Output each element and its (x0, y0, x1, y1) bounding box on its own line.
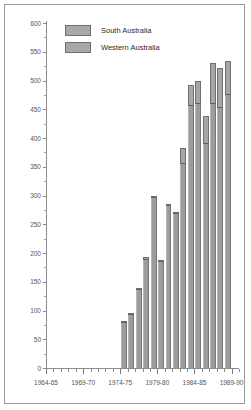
x-tick (91, 369, 92, 372)
bar-segment-western-australia (210, 104, 216, 368)
y-tick-label: 150 (5, 278, 41, 285)
y-tick-label: 50 (5, 336, 41, 343)
y-tick-minor (44, 181, 47, 182)
x-tick (98, 369, 99, 372)
bar-stack (195, 81, 201, 368)
y-tick-label: 100 (5, 307, 41, 314)
bar-segment-south-australia (188, 85, 194, 106)
legend-label-western-australia: Western Australia (101, 42, 160, 53)
bar-segment-western-australia (128, 314, 134, 368)
y-tick (43, 311, 47, 312)
x-tick (143, 369, 144, 372)
y-tick-label: 450 (5, 106, 41, 113)
bar-segment-western-australia (151, 197, 157, 368)
y-tick (43, 224, 47, 225)
y-tick-minor (44, 124, 47, 125)
x-tick (209, 369, 210, 372)
bar-stack (203, 116, 209, 368)
x-tick (239, 369, 240, 372)
y-tick-label: 600 (5, 20, 41, 27)
y-tick (43, 339, 47, 340)
y-tick (43, 81, 47, 82)
bar-stack (173, 212, 179, 368)
bar-stack (166, 204, 172, 368)
bar-segment-western-australia (143, 260, 149, 368)
y-tick-label: 550 (5, 48, 41, 55)
bar-stack (210, 63, 216, 368)
x-tick-major (194, 369, 195, 374)
x-tick (224, 369, 225, 372)
y-tick-label: 300 (5, 192, 41, 199)
x-tick (187, 369, 188, 372)
x-tick-major (46, 369, 47, 374)
legend-label-south-australia: South Australia (101, 25, 151, 36)
y-tick (43, 52, 47, 53)
x-tick (76, 369, 77, 372)
x-tick (113, 369, 114, 372)
bar-segment-western-australia (203, 144, 209, 368)
y-tick-label: 200 (5, 250, 41, 257)
y-tick-minor (44, 37, 47, 38)
bar-segment-south-australia (217, 68, 223, 108)
bar-segment-south-australia (158, 260, 164, 262)
bar-segment-south-australia (166, 204, 172, 207)
bar-segment-western-australia (225, 95, 231, 368)
x-tick-major (157, 369, 158, 374)
bar-segment-western-australia (121, 322, 127, 368)
bar-segment-south-australia (121, 321, 127, 323)
bar-stack (217, 68, 223, 368)
y-tick (43, 23, 47, 24)
bar-stack (188, 85, 194, 368)
bar-segment-south-australia (225, 61, 231, 96)
x-tick (180, 369, 181, 372)
bar-stack (136, 288, 142, 369)
y-tick (43, 138, 47, 139)
bar-segment-western-australia (136, 290, 142, 368)
y-tick-minor (44, 354, 47, 355)
bar-segment-south-australia (151, 196, 157, 198)
y-tick-label: 400 (5, 135, 41, 142)
y-tick (43, 253, 47, 254)
y-tick-label: 350 (5, 163, 41, 170)
bar-segment-western-australia (195, 104, 201, 368)
bar-segment-south-australia (143, 257, 149, 260)
x-tick (217, 369, 218, 372)
x-tick (150, 369, 151, 372)
x-tick (105, 369, 106, 372)
x-tick (202, 369, 203, 372)
chart-frame: 050100150200250300350400450500550600 196… (4, 4, 245, 404)
legend-swatch-south-australia (65, 25, 91, 36)
y-tick (43, 167, 47, 168)
x-tick-label: 1989-90 (209, 379, 251, 387)
bar-segment-south-australia (136, 288, 142, 290)
y-tick-minor (44, 267, 47, 268)
y-tick-minor (44, 325, 47, 326)
y-tick (43, 109, 47, 110)
bar-segment-south-australia (180, 148, 186, 164)
y-tick (43, 196, 47, 197)
y-tick-minor (44, 95, 47, 96)
bar-segment-south-australia (173, 212, 179, 214)
bar-segment-western-australia (166, 206, 172, 368)
bar-segment-western-australia (217, 108, 223, 368)
bar-segment-south-australia (210, 63, 216, 104)
x-tick (68, 369, 69, 372)
bar-segment-south-australia (128, 313, 134, 315)
bar-stack (151, 196, 157, 369)
bar-stack (128, 313, 134, 368)
y-axis-line (46, 21, 47, 368)
y-tick-minor (44, 210, 47, 211)
bar-segment-western-australia (180, 164, 186, 368)
y-tick-minor (44, 239, 47, 240)
bar-stack (121, 321, 127, 368)
x-tick-major (232, 369, 233, 374)
y-tick (43, 282, 47, 283)
bar-segment-western-australia (158, 262, 164, 368)
bar-stack (180, 148, 186, 368)
x-tick (61, 369, 62, 372)
bar-stack (225, 61, 231, 368)
y-tick-label: 0 (5, 365, 41, 372)
x-tick-major (83, 369, 84, 374)
y-tick-minor (44, 296, 47, 297)
y-tick-minor (44, 66, 47, 67)
